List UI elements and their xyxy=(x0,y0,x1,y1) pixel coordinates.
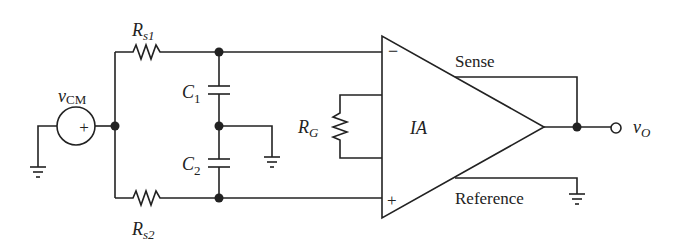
ground-icon xyxy=(569,194,585,204)
svg-text:Rs2: Rs2 xyxy=(131,219,155,242)
resistor-rg: RG xyxy=(297,95,382,158)
svg-text:C2: C2 xyxy=(182,154,201,178)
svg-text:RG: RG xyxy=(297,117,319,140)
vo-label: vO xyxy=(633,117,651,140)
inverting-input-sign: − xyxy=(388,41,398,61)
node-dot xyxy=(573,123,582,132)
svg-text:C1: C1 xyxy=(182,82,201,106)
ia-label: IA xyxy=(409,118,428,138)
sense-label: Sense xyxy=(455,52,495,71)
ground-icon xyxy=(219,126,280,167)
resistor-rs1: Rs1 xyxy=(115,20,219,59)
noninverting-input-sign: + xyxy=(387,191,397,210)
source-polarity-plus: + xyxy=(79,118,89,137)
vcm-source: + vCM xyxy=(57,86,95,145)
svg-text:Rs1: Rs1 xyxy=(131,20,155,43)
schematic: + vCM Rs1 Rs2 C1 C2 xyxy=(0,0,681,250)
reference-label: Reference xyxy=(455,189,524,208)
reference-connection: Reference xyxy=(455,178,577,208)
capacitor-c1: C1 xyxy=(182,52,230,126)
sense-connection: Sense xyxy=(455,52,577,127)
output-terminal xyxy=(611,123,621,133)
resistor-rs2: Rs2 xyxy=(115,191,219,242)
vcm-label: vCM xyxy=(58,86,87,107)
ground-icon xyxy=(30,126,57,177)
capacitor-c2: C2 xyxy=(182,126,230,198)
circuit-diagram: + vCM Rs1 Rs2 C1 C2 xyxy=(0,0,681,250)
